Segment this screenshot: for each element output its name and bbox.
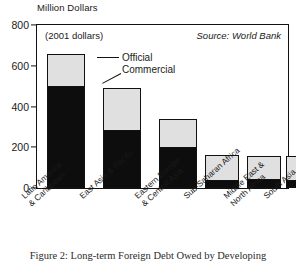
x-label-line1: East Asia & Pacific (78, 148, 136, 201)
x-axis-labels: Latin America & Caribbean East Asia & Pa… (0, 0, 296, 265)
x-label-middle-east-north-africa: Middle East & North Africa (222, 160, 273, 208)
x-label-latin-america-caribbean: Latin America & Caribbean (20, 160, 70, 208)
x-label-eastern-europe-central-asia: Eastern Europe & Central Asia (133, 155, 189, 208)
figure-caption: Figure 2: Long-term Foreign Debt Owed by… (0, 250, 296, 261)
figure-container: Million Dollars 800 600 400 200 0 (2001 … (0, 0, 296, 265)
x-label-east-asia-pacific: East Asia & Pacific (78, 148, 136, 201)
